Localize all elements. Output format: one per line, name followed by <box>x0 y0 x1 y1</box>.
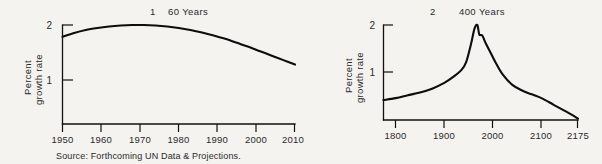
panel-1-ytick-label-2: 2 <box>46 20 52 31</box>
panel-1-xtick-label-1970: 1970 <box>129 134 151 145</box>
panel-2-ylabel-line2: growth rate <box>354 52 365 103</box>
panel-2-ylabel-line1: Percent <box>343 58 354 93</box>
growth-rate-figure: 1 60 Years Percent growth rate 2 1 1950 … <box>0 0 602 164</box>
panel-2-title: 400 Years <box>459 6 505 17</box>
panel-1-ytick-label-1: 1 <box>46 75 52 86</box>
panel-2-xtick-label-2175: 2175 <box>567 130 589 141</box>
panel-1-xtick-label-1990: 1990 <box>206 134 228 145</box>
panel-1-xtick-label-1950: 1950 <box>52 134 74 145</box>
panel-1-title: 60 Years <box>168 6 208 17</box>
panel-400-years: 2 400 Years Percent growth rate 2 1 1800… <box>343 6 589 141</box>
panel-2-ytick-label-1: 1 <box>369 67 375 78</box>
panel-2-ytick-label-2: 2 <box>369 20 375 31</box>
figure-canvas: 1 60 Years Percent growth rate 2 1 1950 … <box>0 0 602 164</box>
panel-2-number: 2 <box>430 6 436 17</box>
panel-1-xtick-label-2000: 2000 <box>245 134 267 145</box>
panel-2-xtick-label-2000: 2000 <box>482 130 504 141</box>
panel-1-ylabel-line1: Percent <box>22 60 33 95</box>
panel-1-growth-curve <box>63 25 296 65</box>
panel-1-number: 1 <box>150 6 156 17</box>
panel-2-growth-curve <box>384 25 579 119</box>
panel-2-xtick-label-2100: 2100 <box>530 130 552 141</box>
source-note: Source: Forthcoming UN Data & Projection… <box>56 151 241 161</box>
panel-1-ylabel-line2: growth rate <box>33 54 44 105</box>
panel-1-xtick-label-1960: 1960 <box>90 134 112 145</box>
panel-2-xtick-label-1800: 1800 <box>385 130 407 141</box>
panel-60-years: 1 60 Years Percent growth rate 2 1 1950 … <box>22 6 304 145</box>
panel-1-xtick-label-2010: 2010 <box>282 134 304 145</box>
panel-2-xtick-label-1900: 1900 <box>433 130 455 141</box>
panel-1-xtick-label-1980: 1980 <box>168 134 190 145</box>
